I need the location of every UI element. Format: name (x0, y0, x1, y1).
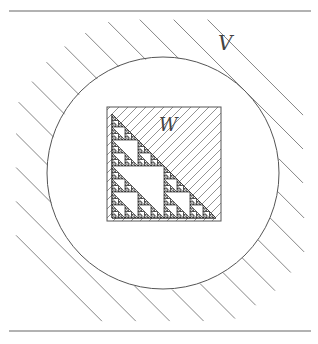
label-v: V (218, 31, 235, 55)
diagram: V W (0, 0, 318, 344)
label-w: W (159, 114, 179, 135)
